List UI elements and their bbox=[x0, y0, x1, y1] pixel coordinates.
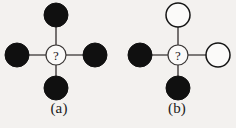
node-right-hollow bbox=[206, 43, 230, 67]
node-top-hollow bbox=[166, 3, 190, 27]
node-right-filled bbox=[83, 43, 107, 67]
node-bottom-filled bbox=[44, 76, 68, 100]
figure-panel-a: ? (a) bbox=[0, 0, 118, 128]
center-query-label: ? bbox=[53, 48, 59, 63]
panel-caption-a: (a) bbox=[0, 99, 118, 117]
node-left-filled bbox=[5, 43, 29, 67]
figure-panel-b: ? (b) bbox=[118, 0, 236, 128]
node-bottom-filled bbox=[166, 76, 190, 100]
center-query-label: ? bbox=[175, 48, 181, 63]
panel-caption-b: (b) bbox=[118, 99, 236, 117]
node-left-filled bbox=[128, 43, 152, 67]
node-top-filled bbox=[44, 3, 68, 27]
figure-root: ? (a) ? (b) bbox=[0, 0, 236, 128]
